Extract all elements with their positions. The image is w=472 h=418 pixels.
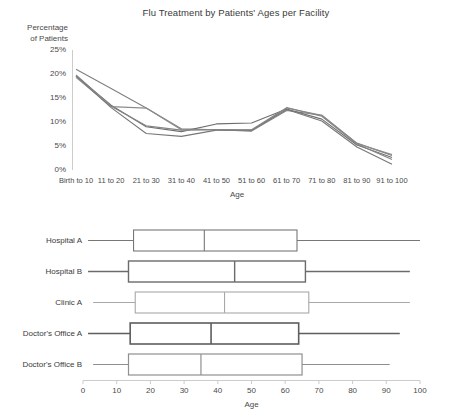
box-plot-x-tick: 90	[373, 386, 399, 395]
line-chart-x-axis-title: Age	[72, 190, 402, 199]
line-chart-y-tick: 25%	[26, 45, 66, 54]
line-chart-y-tick: 20%	[26, 69, 66, 78]
box-plot-item	[88, 230, 420, 251]
line-chart-y-tick: 0%	[26, 165, 66, 174]
box-plot-item	[88, 323, 400, 344]
box-plot-x-tick: 30	[171, 386, 197, 395]
box-plot-x-tick: 70	[306, 386, 332, 395]
box-plot-tick-marks	[83, 381, 420, 385]
box-plot-x-tick: 100	[407, 386, 433, 395]
box-plot-x-tick: 40	[205, 386, 231, 395]
chart-page: Flu Treatment by Patients' Ages per Faci…	[0, 0, 472, 418]
line-chart-title: Flu Treatment by Patients' Ages per Faci…	[0, 7, 472, 18]
box-plot-x-axis-title: Age	[83, 400, 420, 409]
box-plot-x-tick: 20	[137, 386, 163, 395]
line-chart-y-tick: 5%	[26, 141, 66, 150]
box-plot-row-label: Hospital A	[0, 236, 82, 245]
box-plot-group	[88, 230, 420, 375]
line-chart-y-axis-title: Percentage of Patients	[0, 22, 68, 44]
line-chart-plot-area	[72, 50, 402, 170]
line-chart-x-tick: 91 to 100	[369, 176, 415, 185]
box-iqr	[128, 261, 305, 282]
box-plot-x-tick: 50	[239, 386, 265, 395]
line-chart-panel: Flu Treatment by Patients' Ages per Faci…	[0, 0, 472, 212]
box-plot-row-label: Clinic A	[0, 298, 82, 307]
y-axis-title-line1: Percentage	[0, 22, 68, 33]
box-plot-x-tick: 80	[340, 386, 366, 395]
box-plot-row-label: Doctor's Office A	[0, 329, 82, 338]
y-axis-title-line2: of Patients	[0, 33, 68, 44]
line-series	[76, 76, 392, 164]
box-plot-item	[93, 354, 390, 375]
box-plot-x-tick: 10	[104, 386, 130, 395]
box-plot-item	[93, 292, 410, 313]
box-plot-row-label: Hospital B	[0, 267, 82, 276]
box-iqr	[135, 292, 309, 313]
line-chart-y-tick: 15%	[26, 93, 66, 102]
box-plot-x-tick: 60	[272, 386, 298, 395]
box-plot-item	[88, 261, 410, 282]
line-chart-svg	[72, 50, 402, 170]
box-plot-row-label: Doctor's Office B	[0, 360, 82, 369]
box-iqr	[134, 230, 297, 251]
box-iqr	[130, 323, 299, 344]
line-chart-y-tick: 10%	[26, 117, 66, 126]
box-iqr	[128, 354, 302, 375]
box-plot-x-tick: 0	[70, 386, 96, 395]
line-series-group	[76, 69, 392, 164]
